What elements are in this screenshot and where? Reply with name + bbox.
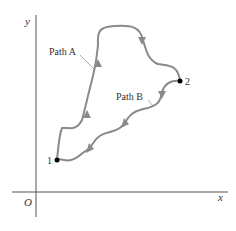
- path-a-label: Path A: [49, 46, 77, 57]
- origin-label: O: [24, 196, 32, 208]
- point-1-label: 1: [47, 155, 52, 166]
- x-axis-label: x: [217, 191, 223, 203]
- path-diagram: y O x Path A Path B 1 2: [0, 0, 236, 231]
- point-2-marker: [178, 79, 183, 84]
- y-axis-label: y: [24, 15, 30, 27]
- path-b-label: Path B: [116, 91, 143, 102]
- path-b-arrow-icon: [158, 91, 166, 99]
- path-a-leader-line: [80, 55, 95, 70]
- point-1-marker: [55, 158, 60, 163]
- point-2-label: 2: [185, 76, 190, 87]
- path-b-leader-line: [148, 100, 153, 106]
